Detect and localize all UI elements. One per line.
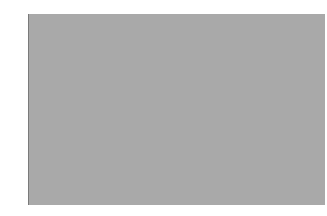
box-plot: [0, 0, 327, 216]
